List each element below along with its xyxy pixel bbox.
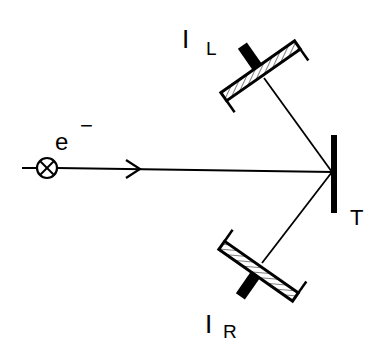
detector-left <box>206 20 308 113</box>
electron-label: e <box>55 128 68 155</box>
detector-left-label: I <box>182 24 189 54</box>
electron-charge-superscript: − <box>80 113 93 138</box>
scattered-ray-left <box>264 78 332 172</box>
detector-right-subscript: R <box>223 321 237 342</box>
scattered-ray-right <box>262 172 332 263</box>
target-label: T <box>350 205 363 230</box>
target-bar <box>331 135 337 213</box>
detector-right <box>204 230 306 323</box>
diagram-canvas: e − T I L I R <box>0 0 389 361</box>
crossed-circle-icon <box>37 158 57 178</box>
beam-line <box>22 168 333 172</box>
detector-right-label: I <box>205 309 212 339</box>
detector-left-subscript: L <box>206 38 217 59</box>
